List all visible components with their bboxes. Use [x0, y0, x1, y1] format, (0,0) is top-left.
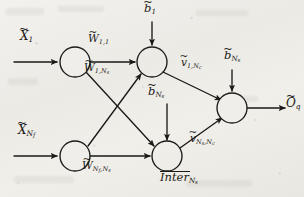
output-node-q — [217, 93, 247, 123]
label-v-ns-nc: vNs,Nc — [190, 133, 215, 146]
hidden-node-1 — [137, 47, 167, 77]
label-output-q: Oq — [286, 97, 301, 110]
label-input-nf: XNf — [18, 124, 35, 139]
label-bias-ns-top: bNs — [224, 50, 240, 64]
label-weight-nf-ns: WNf,Ns — [82, 160, 111, 173]
label-input-1: X1 — [20, 30, 33, 43]
edge-hidden1-to-output — [163, 72, 221, 100]
label-inter-ns: InterNs — [160, 172, 198, 186]
label-bias-ns-middle: bNs — [148, 86, 164, 100]
label-weight-1-ns: W1,Ns — [84, 62, 109, 75]
label-weight-1-1: W1,1 — [88, 33, 109, 45]
edge-inputnf-to-hidden1 — [88, 74, 141, 146]
hidden-node-ns — [152, 141, 182, 171]
label-bias-1: b1 — [144, 3, 156, 15]
label-v-1-nc: v1,Nc — [181, 57, 202, 70]
figure-canvas: X1 XNf W1,1 W1,Ns WNf,Ns b1 bNs bNs v1,N… — [0, 0, 304, 197]
